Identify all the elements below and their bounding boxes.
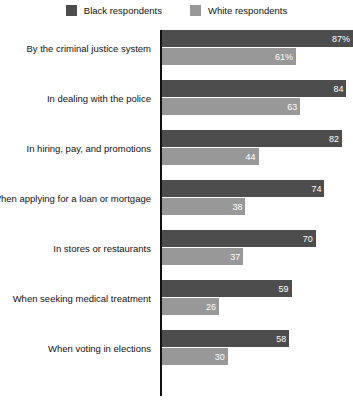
bar-value-label: 26: [206, 302, 219, 312]
legend-swatch-white-respondents: [190, 5, 201, 16]
bar-group: When voting in elections5830: [0, 330, 353, 366]
bar-value-label: 44: [246, 152, 259, 162]
category-label: By the criminal justice system: [0, 30, 155, 66]
bar-black-respondents: 84: [162, 80, 346, 97]
category-label: When applying for a loan or mortgage: [0, 180, 155, 216]
bar-group: When applying for a loan or mortgage7438: [0, 180, 353, 216]
chart-plot-area: By the criminal justice system87%61%In d…: [0, 26, 353, 400]
chart-legend: Black respondents White respondents: [0, 0, 353, 20]
bar-value-label: 37: [230, 252, 243, 262]
bar-white-respondents: 44: [162, 148, 259, 165]
bar-group: In dealing with the police8463: [0, 80, 353, 116]
bar-value-label: 84: [333, 84, 346, 94]
bar-white-respondents: 61%: [162, 48, 296, 65]
bars-wrapper: 8463: [162, 80, 353, 116]
bar-value-label: 61%: [275, 52, 296, 62]
category-label: When voting in elections: [0, 330, 155, 366]
category-label: When seeking medical treatment: [0, 280, 155, 316]
bars-wrapper: 8244: [162, 130, 353, 166]
category-label: In hiring, pay, and promotions: [0, 130, 155, 166]
bar-value-label: 70: [303, 234, 316, 244]
bars-wrapper: 5830: [162, 330, 353, 366]
bar-white-respondents: 30: [162, 348, 228, 365]
legend-swatch-black-respondents: [66, 5, 77, 16]
bar-white-respondents: 37: [162, 248, 243, 265]
legend-item-white-respondents: White respondents: [190, 5, 287, 16]
bar-group: By the criminal justice system87%61%: [0, 30, 353, 66]
bars-wrapper: 7438: [162, 180, 353, 216]
bar-value-label: 38: [232, 202, 245, 212]
bars-wrapper: 7037: [162, 230, 353, 266]
bar-value-label: 63: [287, 102, 300, 112]
legend-item-black-respondents: Black respondents: [66, 5, 162, 16]
bar-value-label: 82: [329, 134, 342, 144]
bar-group: When seeking medical treatment5926: [0, 280, 353, 316]
bars-wrapper: 5926: [162, 280, 353, 316]
category-label: In dealing with the police: [0, 80, 155, 116]
bar-group: In hiring, pay, and promotions8244: [0, 130, 353, 166]
bar-value-label: 30: [215, 352, 228, 362]
legend-label-black-respondents: Black respondents: [84, 5, 162, 16]
bar-value-label: 74: [311, 184, 324, 194]
bar-black-respondents: 82: [162, 130, 342, 147]
bar-group: In stores or restaurants7037: [0, 230, 353, 266]
bar-black-respondents: 74: [162, 180, 324, 197]
bar-white-respondents: 38: [162, 198, 245, 215]
bar-black-respondents: 58: [162, 330, 289, 347]
bar-white-respondents: 63: [162, 98, 300, 115]
category-label: In stores or restaurants: [0, 230, 155, 266]
bar-value-label: 59: [279, 284, 292, 294]
bar-white-respondents: 26: [162, 298, 219, 315]
bar-black-respondents: 87%: [162, 30, 353, 47]
bars-wrapper: 87%61%: [162, 30, 353, 66]
bar-value-label: 58: [276, 334, 289, 344]
bar-black-respondents: 59: [162, 280, 292, 297]
legend-label-white-respondents: White respondents: [208, 5, 287, 16]
bar-black-respondents: 70: [162, 230, 316, 247]
bar-value-label: 87%: [332, 34, 353, 44]
